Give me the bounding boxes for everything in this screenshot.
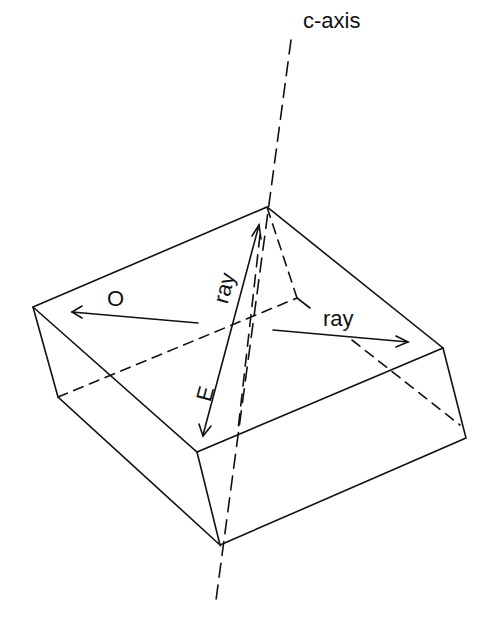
hidden-edge bbox=[58, 298, 297, 397]
left-side bbox=[33, 307, 220, 545]
e-ray bbox=[203, 225, 259, 435]
ray-label-right: ray bbox=[323, 308, 354, 330]
top-face bbox=[33, 207, 443, 452]
o-ray bbox=[72, 312, 198, 323]
c-axis-line bbox=[216, 40, 291, 600]
crystal-drawing bbox=[0, 0, 493, 632]
right-side bbox=[220, 348, 466, 545]
crystal-diagram: c-axis O ray E ray bbox=[0, 0, 493, 632]
hidden-edge bbox=[267, 207, 297, 298]
hidden-edge bbox=[297, 298, 310, 308]
c-axis-label: c-axis bbox=[303, 10, 360, 32]
right-ray bbox=[273, 330, 408, 342]
o-label: O bbox=[107, 288, 124, 310]
